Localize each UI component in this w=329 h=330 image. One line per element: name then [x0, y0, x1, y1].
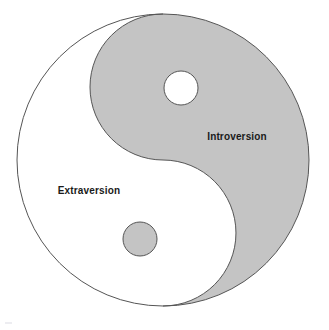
dark-eye-circle — [123, 222, 157, 256]
yin-yang-diagram: Introversion Extraversion — [0, 0, 329, 330]
yin-yang-graphic — [0, 0, 329, 330]
scan-artifact-mark — [5, 322, 12, 324]
light-eye-circle — [164, 71, 198, 105]
